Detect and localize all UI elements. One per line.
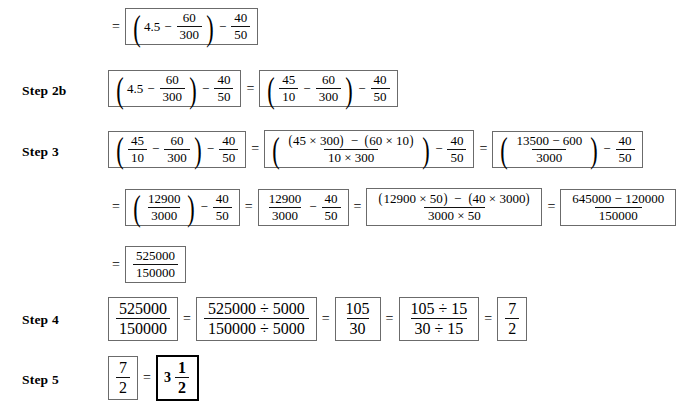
expression-box-step5-1: 7 2 (108, 356, 138, 400)
right-paren-icon: ) (340, 133, 344, 148)
denominator: 50 (447, 149, 466, 165)
fraction-40-over-50: 40 50 (616, 134, 635, 165)
fraction-40-over-50: 40 50 (447, 134, 466, 165)
expression-row2b-left: ( 4.5 − 60 300 ) − 40 50 (114, 73, 235, 104)
fraction-7-over-2: 7 2 (505, 300, 519, 338)
numerator: 525000 (116, 300, 170, 318)
denominator: 3000 (269, 207, 301, 223)
minus-operator: − (216, 19, 229, 35)
equals-sign: = (241, 81, 259, 97)
numerator: (45 × 300) − (60 × 10) (284, 133, 418, 149)
denominator: 150000 ÷ 5000 (204, 318, 309, 337)
expression-box-step4-4: 105 ÷ 15 30 ÷ 15 (399, 297, 480, 341)
right-paren-icon: ) (443, 191, 447, 206)
expression-row4-3: (12900 × 50) − (40 × 3000) 3000 × 50 (372, 191, 536, 223)
fraction-45-over-10: 45 10 (279, 73, 298, 104)
minus-operator: − (204, 141, 217, 157)
numerator: 40 (371, 73, 390, 88)
fraction-7-over-2: 7 2 (116, 359, 130, 397)
fraction-40-over-50: 40 50 (322, 192, 341, 223)
denominator: 50 (371, 88, 390, 104)
fraction-1-over-2: 1 2 (175, 359, 189, 397)
equals-sign: = (381, 311, 399, 327)
expression-box-row4-4: 645000 − 120000 150000 (560, 189, 676, 226)
numerator: 40 (214, 73, 233, 88)
numerator: (12900 × 50) − (40 × 3000) (374, 191, 534, 207)
expression-row4-1: ( 12900 3000 ) − 40 50 (131, 192, 234, 223)
leading-equals-row4: = (112, 199, 125, 215)
minus-operator: − (144, 81, 157, 97)
denominator: 30 (347, 318, 369, 337)
equals-sign: = (246, 141, 264, 157)
denominator: 50 (231, 26, 250, 42)
expression-row1: ( 4.5 − 60 300 ) − 40 50 (131, 11, 252, 42)
numerator: 12900 (266, 192, 305, 207)
expression-box-row4-1: ( 12900 3000 ) − 40 50 (125, 189, 240, 226)
denominator: 30 ÷ 15 (411, 318, 468, 337)
fraction-525000-over-150000: 525000 150000 (116, 300, 170, 338)
numerator: 45 (128, 134, 147, 149)
denominator: 300 (160, 88, 186, 104)
denominator: 10 (128, 149, 147, 165)
numerator: 60 (163, 73, 182, 88)
equals-sign: = (479, 311, 497, 327)
minus-operator: − (600, 141, 613, 157)
numerator: 40 (219, 134, 238, 149)
numerator: 40 (447, 134, 466, 149)
denominator: 150000 (133, 264, 178, 280)
fraction-13500-minus-600-over-3000: 13500 − 600 3000 (512, 134, 586, 165)
denominator: 50 (322, 207, 341, 223)
equation-row-1: = ( 4.5 − 60 300 ) − 40 50 (112, 8, 258, 45)
numerator: 7 (116, 359, 130, 377)
minus-operator: − (197, 199, 210, 215)
minus-operator: − (199, 81, 212, 97)
leading-equals-row5: = (112, 257, 125, 273)
numerator: 40 (231, 11, 250, 26)
expression-box-row3-3: ( 13500 − 600 3000 ) − 40 50 (492, 131, 642, 168)
fraction-40-over-50: 40 50 (214, 73, 233, 104)
fraction-12900-over-3000: 12900 3000 (145, 192, 184, 223)
expression-box-step4-5: 7 2 (497, 297, 527, 341)
expression-row2b-right: ( 45 10 − 60 300 ) − 40 50 (265, 73, 391, 104)
minus-operator: − (149, 141, 162, 157)
expression-box-row1: ( 4.5 − 60 300 ) − 40 50 (125, 8, 258, 45)
left-paren-icon: ( (468, 191, 472, 206)
fraction-divide-by-5000: 525000 ÷ 5000 150000 ÷ 5000 (204, 300, 309, 338)
equation-row-4: = ( 12900 3000 ) − 40 50 = 12900 (112, 188, 676, 226)
fraction-40-over-50: 40 50 (371, 73, 390, 104)
denominator: 50 (219, 149, 238, 165)
expression-box-row4-3: (12900 × 50) − (40 × 3000) 3000 × 50 (366, 188, 542, 226)
fraction-40-over-50: 40 50 (231, 11, 250, 42)
minus-operator: − (306, 199, 319, 215)
mixed-number-answer: 3 1 2 (164, 359, 191, 397)
final-answer-box: 3 1 2 (156, 355, 199, 401)
numerator: 525000 ÷ 5000 (204, 300, 309, 318)
fraction-525000-over-150000: 525000 150000 (133, 249, 178, 280)
leading-equals-row1: = (112, 19, 125, 35)
numerator: 645000 − 120000 (568, 192, 668, 207)
denominator: 150000 (116, 318, 170, 337)
right-paren-icon: ) (526, 191, 530, 206)
product-45-times-300: 45 × 300 (293, 133, 339, 148)
denominator: 10 × 300 (324, 149, 378, 165)
right-paren-icon: ) (410, 133, 414, 148)
product-12900-times-50: 12900 × 50 (383, 191, 442, 206)
denominator: 300 (316, 88, 342, 104)
equation-row-2b: ( 4.5 − 60 300 ) − 40 50 = ( 45 (108, 70, 398, 107)
denominator: 2 (505, 318, 519, 337)
equals-sign: = (317, 311, 335, 327)
expression-row5-1: 525000 150000 (131, 249, 180, 280)
whole-part: 3 (164, 370, 173, 386)
fraction-60-over-300: 60 300 (164, 134, 190, 165)
equals-sign: = (349, 199, 367, 215)
expression-box-row3-2: ( (45 × 300) − (60 × 10) 10 × 300 ) − 40… (264, 130, 474, 168)
expression-box-step4-2: 525000 ÷ 5000 150000 ÷ 5000 (196, 297, 317, 341)
expression-row4-2: 12900 3000 − 40 50 (264, 192, 343, 223)
numerator: 13500 − 600 (512, 134, 586, 149)
left-paren-icon: ( (379, 191, 383, 206)
fraction-12900-over-3000: 12900 3000 (266, 192, 305, 223)
denominator: 150000 (595, 207, 642, 223)
equals-sign: = (138, 370, 156, 386)
step-label-4: Step 4 (22, 312, 59, 328)
denominator: 50 (214, 88, 233, 104)
